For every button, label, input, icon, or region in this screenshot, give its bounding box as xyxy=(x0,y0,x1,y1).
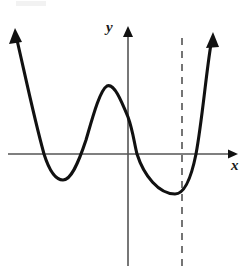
y-axis xyxy=(123,26,133,266)
x-axis-label: x xyxy=(231,158,239,173)
y-axis-label: y xyxy=(106,20,113,35)
curve-right-arrowhead-icon xyxy=(206,32,219,48)
graph-figure: y x xyxy=(0,0,246,266)
curve xyxy=(9,28,219,194)
curve-left-arrowhead-icon xyxy=(9,28,22,44)
y-axis-arrowhead-icon xyxy=(123,26,133,37)
graph-canvas xyxy=(0,0,246,266)
